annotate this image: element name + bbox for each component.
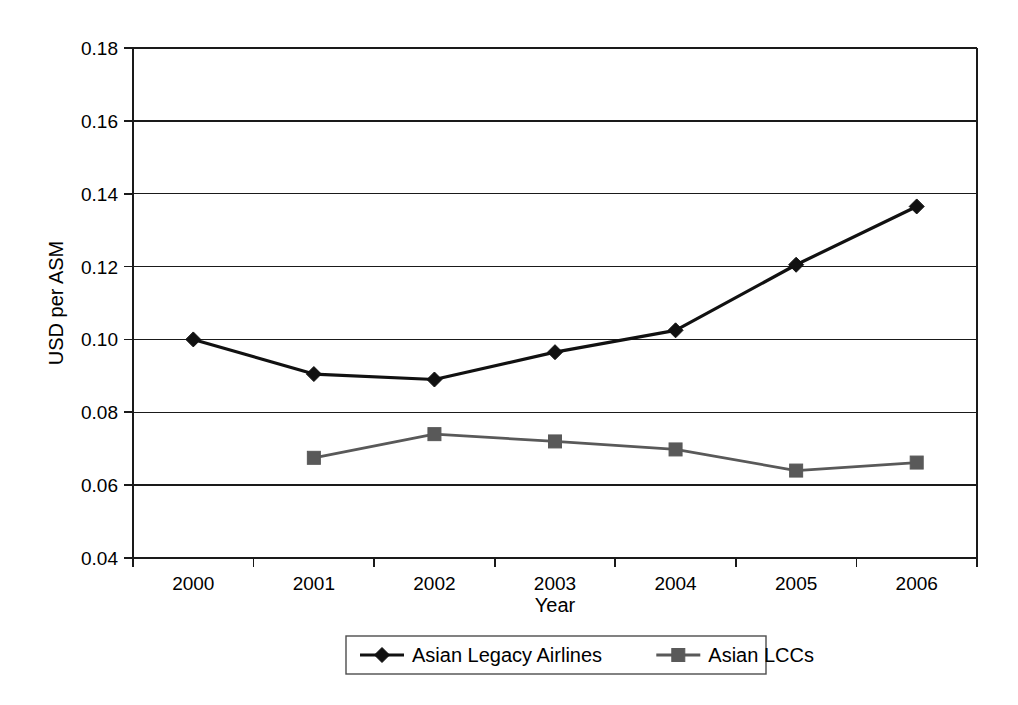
x-tick-label: 2003: [534, 573, 576, 594]
data-point-square: [549, 435, 562, 448]
chart-figure: 0.040.060.080.100.120.140.160.18 2000200…: [0, 0, 1018, 705]
y-tick-label: 0.08: [81, 402, 118, 423]
y-axis-title: USD per ASM: [45, 241, 67, 365]
y-tick-label: 0.18: [81, 38, 118, 59]
data-point-square: [307, 451, 320, 464]
y-tick-label: 0.10: [81, 329, 118, 350]
line-chart: 0.040.060.080.100.120.140.160.18 2000200…: [0, 0, 1018, 705]
data-point-square: [910, 456, 923, 469]
chart-legend: Asian Legacy AirlinesAsian LCCs: [346, 636, 814, 674]
data-point-square: [790, 464, 803, 477]
legend-label: Asian Legacy Airlines: [412, 644, 602, 666]
data-point-square: [428, 428, 441, 441]
plot-area-background: [133, 48, 977, 558]
y-tick-label: 0.06: [81, 475, 118, 496]
y-tick-label: 0.04: [81, 548, 118, 569]
y-axis-ticks: 0.040.060.080.100.120.140.160.18: [81, 38, 133, 569]
x-tick-label: 2005: [775, 573, 817, 594]
x-tick-label: 2002: [413, 573, 455, 594]
x-axis-title: Year: [535, 594, 576, 616]
y-tick-label: 0.16: [81, 111, 118, 132]
x-tick-label: 2004: [654, 573, 697, 594]
legend-label: Asian LCCs: [708, 644, 814, 666]
legend-square-icon: [672, 649, 685, 662]
x-axis-ticks: 2000200120022003200420052006: [133, 558, 977, 594]
legend-items: Asian Legacy AirlinesAsian LCCs: [360, 644, 814, 666]
y-tick-label: 0.14: [81, 184, 118, 205]
x-tick-label: 2001: [293, 573, 335, 594]
x-tick-label: 2000: [172, 573, 214, 594]
y-tick-label: 0.12: [81, 257, 118, 278]
x-tick-label: 2006: [896, 573, 938, 594]
data-point-square: [669, 443, 682, 456]
